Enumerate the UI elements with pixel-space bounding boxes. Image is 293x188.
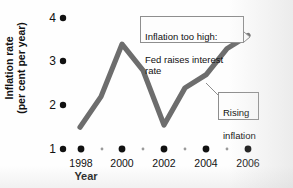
- x-tick-label-2006: 2006: [226, 158, 270, 169]
- x-tick-label-2000: 2000: [100, 158, 144, 169]
- x-axis-label: Year: [62, 170, 110, 182]
- annotation-rising-inflation-line1: Rising: [223, 107, 255, 119]
- annotation-inflation-too-high-line1: Inflation too high:: [145, 31, 240, 43]
- annotation-rising-inflation-line2: inflation: [223, 130, 255, 142]
- annotation-rising-inflation: Rising inflation: [218, 92, 259, 120]
- x-tick-label-2002: 2002: [142, 158, 186, 169]
- x-tick-label-1998: 1998: [59, 158, 103, 169]
- annotation-inflation-too-high: Inflation too high: Fed raises interest …: [140, 16, 244, 43]
- annotation-inflation-too-high-line2: Fed raises interest rate: [145, 54, 240, 77]
- x-tick-label-2004: 2004: [184, 158, 228, 169]
- y-axis-marker-dots: [60, 15, 66, 152]
- inflation-rate-line-chart: 4 3 2 1 Inflation rate (per cent per yea…: [0, 0, 293, 188]
